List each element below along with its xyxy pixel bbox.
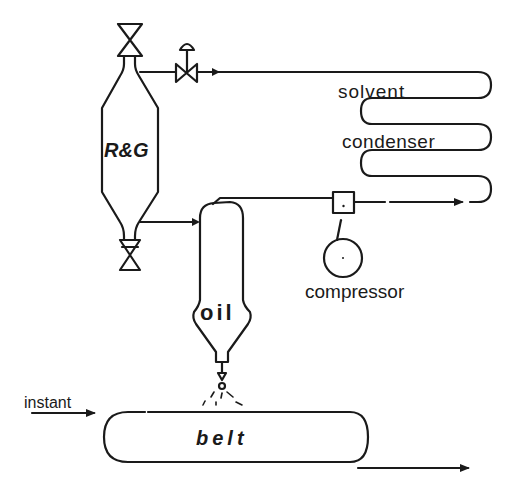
instant-label: instant xyxy=(24,395,71,411)
belt-label: belt xyxy=(196,428,248,448)
compressor-icon xyxy=(324,192,362,277)
diagram-drawing xyxy=(0,0,510,478)
vessel-to-separator-line xyxy=(140,218,200,226)
top-valve-icon xyxy=(118,24,142,56)
return-line xyxy=(140,68,350,76)
vessel-label: R&G xyxy=(104,140,148,160)
process-diagram: R&G solvent condenser compressor oil ins… xyxy=(0,0,510,478)
control-valve-icon[interactable] xyxy=(176,44,197,82)
separator-label: oil xyxy=(200,302,235,324)
condenser-label-line1: solvent xyxy=(338,82,405,101)
compressor-label: compressor xyxy=(305,282,404,301)
separator-to-condenser-line xyxy=(240,198,462,202)
oil-separator-shape xyxy=(193,198,250,362)
bottom-valve-icon xyxy=(120,240,140,270)
spray-nozzle-icon xyxy=(203,362,242,405)
condenser-label-line2: condenser xyxy=(342,132,435,151)
